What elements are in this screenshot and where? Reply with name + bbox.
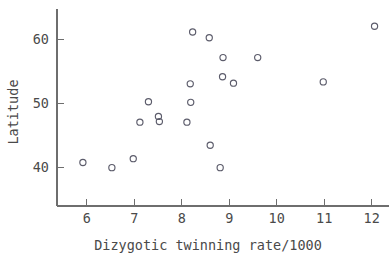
data-point — [188, 99, 194, 105]
data-point — [371, 23, 377, 29]
x-tick-label: 10 — [269, 210, 285, 226]
data-point — [80, 159, 86, 165]
y-axis-ticks: 405060 — [33, 31, 64, 175]
data-point — [220, 54, 226, 60]
data-point — [137, 119, 143, 125]
x-tick-label: 6 — [83, 210, 91, 226]
y-tick-label: 40 — [33, 159, 49, 175]
data-points-layer — [80, 23, 378, 171]
axes-group — [57, 9, 389, 206]
y-axis-title: Latitude — [5, 79, 21, 144]
data-point — [130, 156, 136, 162]
x-tick-label: 9 — [225, 210, 233, 226]
data-point — [207, 142, 213, 148]
x-axis-ticks: 6789101112 — [83, 199, 380, 226]
chart-canvas: 405060 6789101112 Dizygotic twinning rat… — [0, 0, 389, 257]
data-point — [230, 80, 236, 86]
data-point — [184, 119, 190, 125]
data-point — [217, 165, 223, 171]
data-point — [255, 54, 261, 60]
x-tick-label: 8 — [178, 210, 186, 226]
data-point — [320, 79, 326, 85]
data-point — [109, 165, 115, 171]
data-point — [145, 99, 151, 105]
data-point — [219, 74, 225, 80]
x-tick-label: 11 — [316, 210, 332, 226]
y-tick-label: 50 — [33, 95, 49, 111]
x-tick-label: 7 — [130, 210, 138, 226]
data-point — [206, 35, 212, 41]
data-point — [187, 81, 193, 87]
x-tick-label: 12 — [364, 210, 380, 226]
y-tick-label: 60 — [33, 31, 49, 47]
x-axis-title: Dizygotic twinning rate/1000 — [94, 237, 322, 253]
data-point — [190, 29, 196, 35]
scatter-plot-figure: 405060 6789101112 Dizygotic twinning rat… — [0, 0, 389, 257]
